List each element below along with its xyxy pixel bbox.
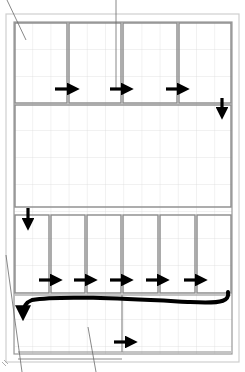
- panel-layout-diagram: [0, 0, 245, 372]
- corner-mark-icon: [2, 360, 8, 366]
